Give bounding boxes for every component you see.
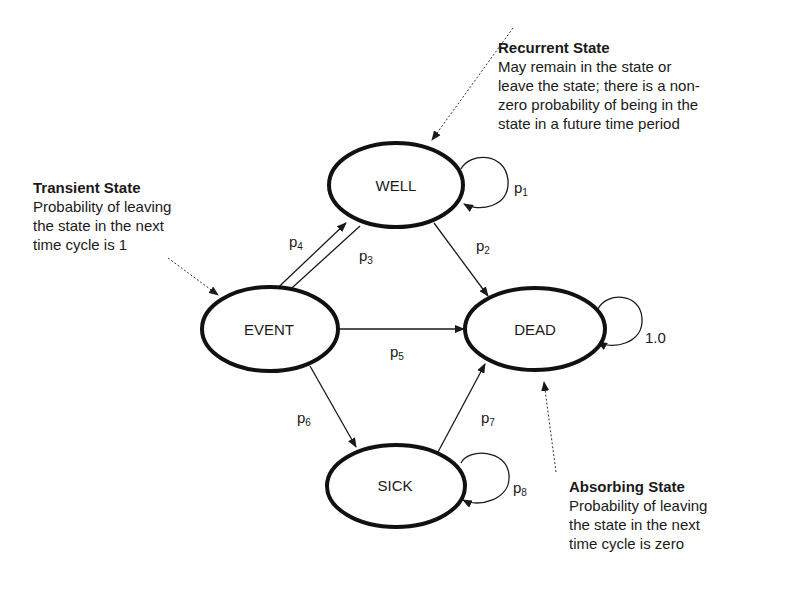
edge-p2: [434, 223, 488, 296]
recurrent-state-title: Recurrent State: [498, 38, 700, 57]
label-p3: p3: [359, 247, 373, 266]
node-event-label: EVENT: [244, 321, 294, 338]
node-dead-label: DEAD: [514, 321, 556, 338]
label-p5: p5: [390, 343, 404, 362]
node-event: EVENT: [202, 287, 338, 371]
recurrent-state-annotation: Recurrent State May remain in the state …: [498, 38, 700, 133]
self-loop-sick: [461, 453, 509, 503]
absorbing-state-line: time cycle is zero: [569, 534, 707, 553]
absorbing-state-title: Absorbing State: [569, 477, 707, 496]
transient-pointer: [168, 258, 218, 295]
recurrent-state-line: zero probability of being in the: [498, 95, 700, 114]
label-p4: p4: [289, 233, 303, 252]
node-sick: SICK: [327, 445, 465, 527]
label-p1: p1: [514, 179, 528, 198]
node-dead: DEAD: [465, 288, 605, 370]
label-p2: p2: [476, 237, 490, 256]
node-well: WELL: [329, 143, 463, 227]
recurrent-state-line: May remain in the state or: [498, 57, 700, 76]
absorbing-state-line: the state in the next: [569, 515, 707, 534]
transient-state-annotation: Transient State Probability of leaving t…: [33, 178, 171, 254]
node-sick-label: SICK: [377, 477, 412, 494]
recurrent-state-line: leave the state; there is a non-: [498, 76, 700, 95]
label-p8: p8: [513, 479, 527, 498]
absorbing-state-annotation: Absorbing State Probability of leaving t…: [569, 477, 707, 553]
absorbing-pointer: [544, 382, 556, 472]
node-well-label: WELL: [376, 177, 417, 194]
absorbing-state-line: Probability of leaving: [569, 496, 707, 515]
transient-state-line: Probability of leaving: [33, 197, 171, 216]
self-loop-well: [461, 157, 508, 207]
transient-state-title: Transient State: [33, 178, 171, 197]
edge-p7: [438, 364, 485, 452]
transient-state-line: time cycle is 1: [33, 235, 171, 254]
label-dead-self: 1.0: [645, 329, 666, 346]
transient-state-line: the state in the next: [33, 216, 171, 235]
recurrent-state-line: state in a future time period: [498, 114, 700, 133]
label-p6: p6: [297, 409, 311, 428]
edge-p6: [310, 366, 356, 447]
label-p7: p7: [481, 409, 495, 428]
